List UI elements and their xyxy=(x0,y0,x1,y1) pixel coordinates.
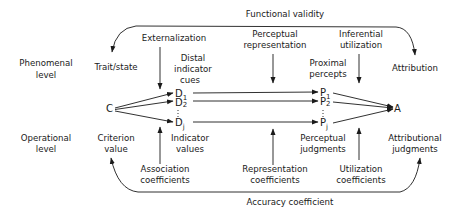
association-coefficients-label-1: Association xyxy=(141,164,190,174)
association-coefficients-label-2: coefficients xyxy=(140,175,190,185)
trait-state-label: Trait/state xyxy=(93,62,137,72)
representation-coefficients-label-2: coefficients xyxy=(250,175,300,185)
attributional-judgments-label-2: judgments xyxy=(391,144,438,154)
representation-coefficients-label-1: Representation xyxy=(242,164,307,174)
distal-cue-j: Dj xyxy=(175,117,185,131)
criterion-value-label-1: Criterion xyxy=(97,133,134,143)
utilization-coefficients-label-1: Utilization xyxy=(339,164,382,174)
indicator-values-label-2: values xyxy=(176,144,204,154)
distal-cues-label-2: indicator xyxy=(174,64,212,74)
lens-model-diagram: Functional validity Phenomenal level Ope… xyxy=(0,0,460,213)
externalization-label: Externalization xyxy=(142,33,206,43)
diagram-canvas: Functional validity Phenomenal level Ope… xyxy=(0,0,460,213)
phenomenal-level-label-2: level xyxy=(36,70,56,80)
proximal-percepts-label-2: percepts xyxy=(309,69,347,79)
lens-core: C D1 D2 Dj P1 P2 Pj A xyxy=(106,87,401,131)
criterion-value-label-2: value xyxy=(104,144,127,154)
perceptual-representation-label-2: representation xyxy=(243,40,306,50)
perceptual-judgments-label-1: Perceptual xyxy=(300,133,345,143)
proximal-percept-j: Pj xyxy=(320,117,328,131)
attributional-judgments-label-1: Attributional xyxy=(388,133,441,143)
indicator-values-label-1: Indicator xyxy=(171,133,209,143)
proximal-percepts-label-1: Proximal xyxy=(310,58,347,68)
phenomenal-level-label-1: Phenomenal xyxy=(19,58,72,68)
utilization-coefficients-label-2: coefficients xyxy=(336,175,386,185)
attribution-label: Attribution xyxy=(392,63,438,73)
functional-validity-label: Functional validity xyxy=(246,9,324,19)
perceptual-representation-label-1: Perceptual xyxy=(252,29,297,39)
operational-level-label-2: level xyxy=(36,144,56,154)
inferential-utilization-label-2: utilization xyxy=(340,40,382,50)
accuracy-coefficient-label: Accuracy coefficient xyxy=(247,197,334,207)
operational-level-label-1: Operational xyxy=(21,133,71,143)
attribution-node: A xyxy=(394,103,401,114)
criterion-node: C xyxy=(106,103,113,114)
distal-cues-label-3: cues xyxy=(180,75,200,85)
inferential-utilization-label-1: Inferential xyxy=(339,29,383,39)
perceptual-judgments-label-2: judgments xyxy=(299,144,346,154)
distal-cues-label-1: Distal xyxy=(181,53,206,63)
